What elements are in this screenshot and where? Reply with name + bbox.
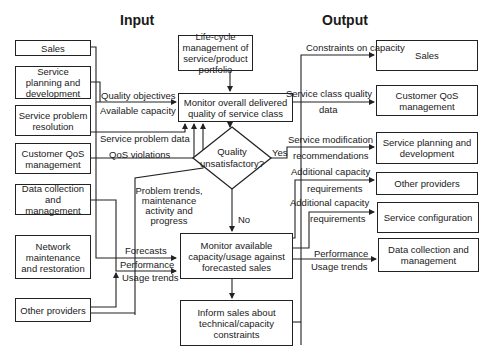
flow-label-constraints-1: Constraints on capacity xyxy=(306,42,370,53)
input-box-network-maintenance: Network maintenance and restoration xyxy=(15,235,91,279)
flow-label-qos-violations: QoS violations xyxy=(109,149,170,160)
flow-label-performance-in: Performance xyxy=(120,259,174,270)
input-box-service-problem: Service problem resolution xyxy=(15,105,91,136)
flow-label-usage-trends-in: Usage trends xyxy=(122,272,179,283)
output-box-customer-qos: Customer QoS management xyxy=(376,85,478,116)
output-title: Output xyxy=(322,12,368,28)
flow-label-forecasts: Forecasts xyxy=(125,245,167,256)
flow-label-service-problem-data: Service problem data xyxy=(100,133,190,144)
input-box-service-planning: Service planning and development xyxy=(15,66,91,99)
output-box-data-collection: Data collection and management xyxy=(378,238,479,272)
flow-label-requirements-b: requirements xyxy=(310,213,365,224)
flow-label-problem-trends: Problem trends, maintenance activity and… xyxy=(127,186,211,226)
flow-label-service-class-data: data xyxy=(319,104,338,115)
output-box-other-providers: Other providers xyxy=(376,172,478,195)
flow-label-service-modification: Service modification xyxy=(288,134,373,145)
no-label: No xyxy=(238,214,250,225)
input-box-sales: Sales xyxy=(15,40,91,56)
flow-label-performance-out: Performance xyxy=(314,248,368,259)
flow-label-recommendations: recommendations xyxy=(293,150,369,161)
flow-label-available-capacity: Available capacity xyxy=(100,105,176,116)
flow-label-requirements-a: requirements xyxy=(307,183,362,194)
input-box-data-collection: Data collection and management xyxy=(15,184,91,215)
process-monitor-quality: Monitor overall delivered quality of ser… xyxy=(178,93,293,122)
input-box-other-providers: Other providers xyxy=(15,298,91,322)
flow-label-additional-capacity-b: Additional capacity xyxy=(290,197,369,208)
flow-label-additional-capacity-a: Additional capacity xyxy=(291,166,370,177)
output-box-service-planning: Service planning and development xyxy=(376,132,478,164)
decision-label: Quality unsatisfactory? xyxy=(200,146,264,170)
flow-label-usage-trends-out: Usage trends xyxy=(311,261,368,272)
process-monitor-capacity: Monitor available capacity/usage against… xyxy=(180,233,293,279)
input-title: Input xyxy=(120,12,154,28)
input-box-customer-qos: Customer QoS management xyxy=(15,143,91,174)
flow-label-quality-objectives: Quality objectives xyxy=(101,90,175,101)
process-inform-sales: Inform sales about technical/capacity co… xyxy=(180,300,293,346)
flow-label-service-class-quality: Service class quality xyxy=(286,88,372,99)
yes-label: Yes xyxy=(272,147,288,158)
process-lifecycle: Life-cycle management of service/product… xyxy=(178,35,253,71)
output-box-service-configuration: Service configuration xyxy=(377,202,479,233)
